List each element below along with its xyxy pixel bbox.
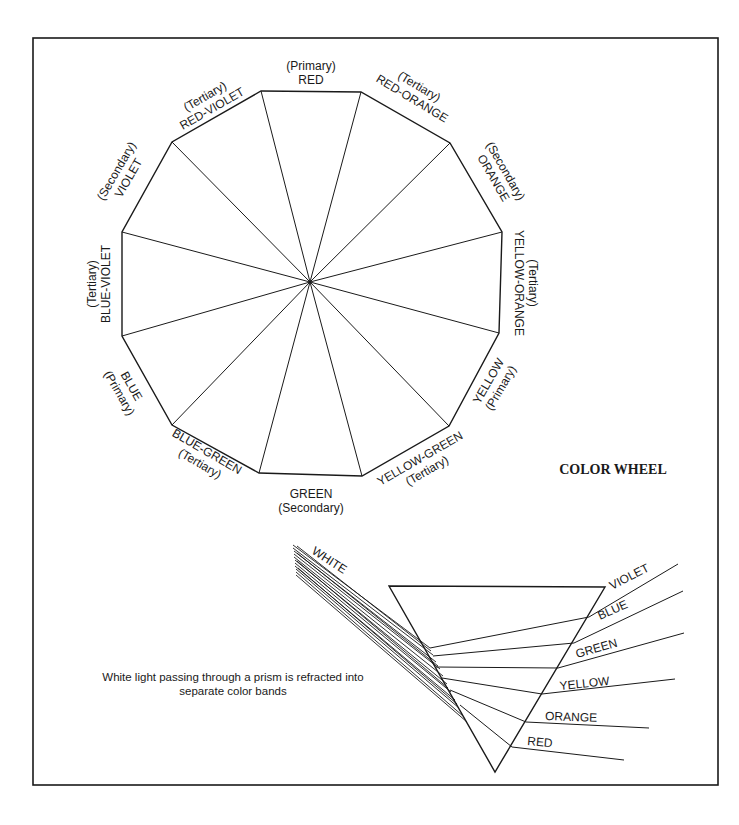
- segment-label-violet: (Secondary) VIOLET: [94, 139, 151, 210]
- svg-text:(Secondary): (Secondary): [278, 501, 343, 515]
- wheel-spokes: [122, 91, 502, 476]
- segment-label-blue: BLUE (Primary): [101, 361, 150, 418]
- segment-label-yellow-orange: (Tertiary) YELLOW-ORANGE: [512, 230, 540, 336]
- segment-label-green: GREEN (Secondary): [278, 487, 343, 515]
- prism-diagram: WHITE VIOLET BLUE GREEN YELLOW ORANGE RE…: [293, 544, 684, 772]
- segment-label-red-violet: (Tertiary) RED-VIOLET: [170, 72, 247, 133]
- segment-label-yellow-green: YELLOW-GREEN (Tertiary): [375, 428, 473, 500]
- svg-text:RED: RED: [298, 73, 324, 87]
- svg-text:(Tertiary): (Tertiary): [85, 260, 99, 307]
- ray-blue: [574, 591, 683, 643]
- exit-rays: [512, 564, 684, 760]
- svg-text:(Tertiary): (Tertiary): [526, 259, 540, 306]
- color-wheel: (Primary) RED (Tertiary) RED-ORANGE (Sec…: [85, 59, 540, 515]
- color-wheel-diagram: (Primary) RED (Tertiary) RED-ORANGE (Sec…: [0, 0, 739, 825]
- segment-label-orange: (Secondary) ORANGE: [471, 139, 528, 210]
- band-label-yellow: YELLOW: [559, 674, 611, 693]
- band-label-orange: ORANGE: [545, 709, 597, 725]
- svg-text:separate color bands: separate color bands: [179, 685, 287, 697]
- svg-text:(Primary): (Primary): [286, 59, 335, 73]
- ray-red: [512, 747, 624, 760]
- svg-text:White light passing through a: White light passing through a prism is r…: [102, 671, 363, 683]
- band-label-red: RED: [527, 734, 554, 750]
- svg-text:GREEN: GREEN: [290, 487, 333, 501]
- segment-label-red-orange: (Tertiary) RED-ORANGE: [374, 60, 458, 126]
- segment-label-blue-violet: (Tertiary) BLUE-VIOLET: [85, 244, 113, 323]
- segment-label-red: (Primary) RED: [286, 59, 335, 87]
- svg-text:YELLOW-ORANGE: YELLOW-ORANGE: [512, 230, 526, 336]
- svg-text:BLUE-VIOLET: BLUE-VIOLET: [99, 244, 113, 323]
- diagram-title: COLOR WHEEL: [559, 462, 667, 477]
- white-light-beam: [293, 545, 467, 722]
- prism-caption: White light passing through a prism is r…: [102, 671, 363, 697]
- band-label-violet: VIOLET: [607, 561, 652, 593]
- segment-label-blue-green: BLUE-GREEN (Tertiary): [163, 426, 245, 489]
- segment-label-yellow: YELLOW (Primary): [470, 355, 520, 413]
